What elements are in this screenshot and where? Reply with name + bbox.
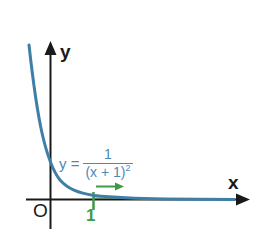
fraction-numerator: 1 (100, 147, 116, 163)
function-equation-label: y = 1 (x + 1)2 (59, 147, 133, 180)
denominator-base: (x + 1) (85, 164, 125, 180)
x-axis-label: x (228, 173, 239, 192)
y-axis-label: y (60, 42, 71, 61)
equation-fraction: 1 (x + 1)2 (83, 147, 132, 180)
rightward-arrow-icon (96, 183, 124, 191)
plot-canvas (0, 0, 258, 229)
equation-left-hand-side: y = (59, 155, 79, 172)
origin-label: O (33, 201, 48, 220)
fraction-denominator: (x + 1)2 (83, 164, 132, 180)
function-graph-figure: y x O 1 y = 1 (x + 1)2 (0, 0, 258, 229)
denominator-exponent: 2 (126, 164, 131, 174)
x-axis-arrow-icon (236, 194, 250, 206)
x-tick-label-1: 1 (86, 207, 95, 224)
y-axis-arrow-icon (45, 41, 57, 55)
